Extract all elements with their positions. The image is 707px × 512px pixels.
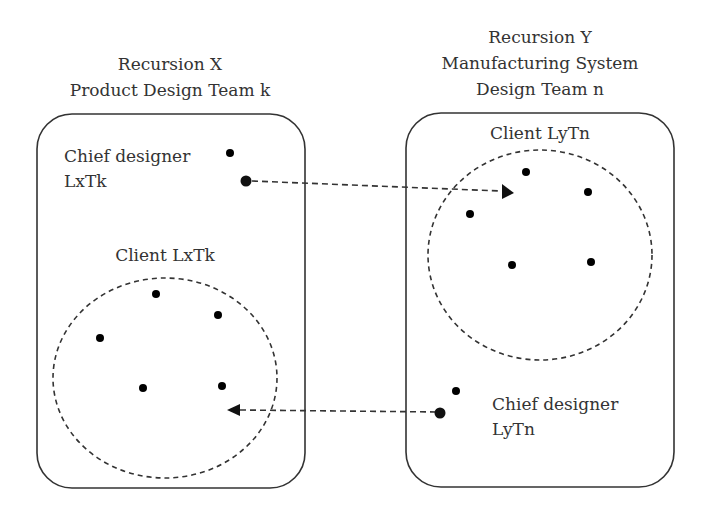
right-recursion-box xyxy=(406,113,674,487)
left-client-figure xyxy=(75,334,125,388)
left-client-figure xyxy=(193,311,243,365)
left-client-group xyxy=(53,278,277,478)
right-title-line1: Recursion Y xyxy=(488,27,592,47)
right-client-figure xyxy=(566,258,616,312)
diagram-canvas: Recursion X Product Design Team k Recurs… xyxy=(0,0,707,512)
right-title-line2: Manufacturing System xyxy=(442,53,639,73)
left-title-line2: Product Design Team k xyxy=(70,80,271,100)
left-client-figure xyxy=(118,384,168,438)
arrowhead-icon xyxy=(227,404,240,416)
left-title-line1: Recursion X xyxy=(118,54,223,74)
right-client-figure xyxy=(487,261,537,315)
connector-lxtk-to-lytn xyxy=(252,181,500,191)
right-client-label: Client LyTn xyxy=(490,123,590,143)
connector-lytn-to-lxtk xyxy=(240,410,440,412)
right-client-figure xyxy=(563,188,613,242)
right-chief-label-line1: Chief designer xyxy=(492,394,619,414)
left-client-figure xyxy=(131,290,181,344)
connector-origin-dot xyxy=(435,408,446,419)
arrowhead-icon xyxy=(502,184,514,199)
right-client-figure xyxy=(445,210,495,264)
right-chief-label-line2: LyTn xyxy=(492,419,535,439)
left-client-label: Client LxTk xyxy=(115,245,215,265)
left-chief-label-line1: Chief designer xyxy=(64,146,191,166)
left-chief-label-line2: LxTk xyxy=(64,171,107,191)
right-client-group xyxy=(428,150,652,360)
connector-origin-dot xyxy=(241,176,252,187)
right-title-line3: Design Team n xyxy=(476,79,604,99)
